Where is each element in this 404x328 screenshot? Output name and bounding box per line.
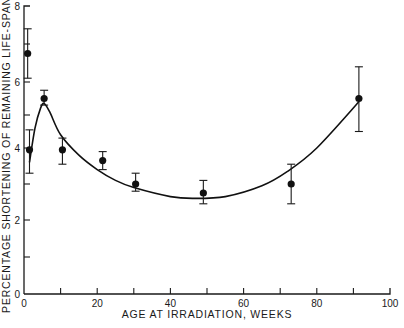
point-marker [200, 189, 207, 196]
y-tick-label: 2 [14, 215, 20, 226]
data-point [99, 152, 107, 170]
data-point [199, 180, 207, 203]
point-marker [355, 95, 362, 102]
y-tick-label: 0 [14, 289, 20, 300]
point-marker [24, 50, 31, 57]
x-tick-label: 0 [21, 298, 27, 309]
y-tick-label: 6 [14, 77, 20, 88]
data-point [25, 130, 33, 173]
data-point [40, 90, 48, 105]
y-tick-label: 4 [14, 143, 20, 154]
x-tick-label: 100 [382, 298, 399, 309]
chart: 020406080100 02468 AGE AT IRRADIATION, W… [0, 0, 404, 328]
fitted-curve [29, 102, 358, 199]
point-marker [288, 180, 295, 187]
y-axis-title: PERCENTAGE SHORTENING OF REMAINING LIFE-… [0, 0, 12, 313]
x-tick-label: 20 [92, 298, 104, 309]
point-marker [26, 146, 33, 153]
data-point [355, 67, 363, 132]
point-marker [99, 157, 106, 164]
axes: 020406080100 02468 [14, 1, 398, 309]
point-marker [132, 180, 139, 187]
x-tick-label: 80 [311, 298, 323, 309]
point-marker [41, 95, 48, 102]
point-marker [59, 146, 66, 153]
x-ticks: 020406080100 [21, 288, 399, 309]
data-points [24, 29, 363, 204]
x-axis-title: AGE AT IRRADIATION, WEEKS [122, 308, 293, 320]
data-point [24, 29, 32, 78]
y-tick-label: 8 [14, 1, 20, 12]
